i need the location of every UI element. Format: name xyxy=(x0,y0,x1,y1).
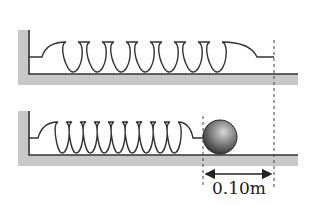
bottom-spring xyxy=(29,122,203,153)
displacement-label: 0.10m xyxy=(212,178,266,198)
top-system xyxy=(18,30,298,100)
bottom-system: 0.10m xyxy=(18,100,298,198)
top-wall-and-floor xyxy=(18,30,298,85)
ball xyxy=(203,120,237,154)
top-spring xyxy=(29,42,274,72)
spring-diagram: 0.10m xyxy=(0,0,316,205)
bottom-wall-and-floor xyxy=(18,111,298,166)
